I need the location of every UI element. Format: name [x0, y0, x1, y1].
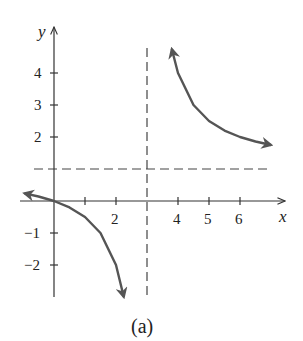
right-branch-curve: [172, 49, 271, 145]
x-tick-label-6: 6: [235, 211, 243, 227]
y-tick-label-m2: −2: [24, 257, 40, 273]
y-tick-label-4: 4: [34, 65, 42, 81]
y-tick-label-2: 2: [34, 129, 42, 145]
y-axis-label: y: [36, 22, 46, 41]
y-tick-label-3: 3: [34, 97, 42, 113]
x-tick-label-4: 4: [173, 211, 181, 227]
x-tick-label-5: 5: [204, 211, 212, 227]
y-tick-label-m1: −1: [24, 225, 40, 241]
x-axis-label: x: [278, 207, 287, 226]
figure-caption: (a): [131, 315, 153, 338]
left-branch-curve: [25, 193, 124, 297]
x-tick-label-2: 2: [111, 211, 119, 227]
graph: 2 4 5 6 4 3 2 −1 −2 x y (a): [0, 0, 303, 341]
